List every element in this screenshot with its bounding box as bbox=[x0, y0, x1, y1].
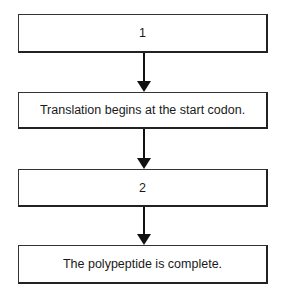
step-box-3: 2 bbox=[18, 169, 268, 207]
connector-line bbox=[143, 129, 145, 159]
connector-line bbox=[143, 207, 145, 235]
step-box-2: Translation begins at the start codon. bbox=[18, 92, 268, 129]
step-label: The polypeptide is complete. bbox=[63, 257, 222, 271]
step-label: 2 bbox=[139, 181, 146, 195]
connector-line bbox=[143, 53, 145, 82]
step-box-1: 1 bbox=[18, 14, 268, 53]
arrow-down-icon bbox=[137, 81, 151, 92]
step-label: Translation begins at the start codon. bbox=[40, 103, 245, 117]
step-label: 1 bbox=[139, 26, 146, 40]
arrow-down-icon bbox=[137, 158, 151, 169]
arrow-down-icon bbox=[137, 234, 151, 245]
step-box-4: The polypeptide is complete. bbox=[18, 245, 268, 284]
